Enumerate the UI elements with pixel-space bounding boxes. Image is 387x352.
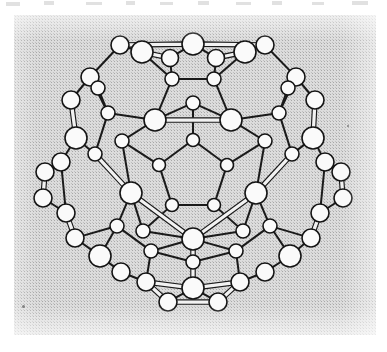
atom-57 xyxy=(112,263,130,281)
atom-11 xyxy=(220,109,242,131)
bond-single xyxy=(275,227,305,236)
scanned-figure-panel xyxy=(14,15,376,335)
scan-streak-mark xyxy=(272,1,282,5)
atom-52 xyxy=(137,273,155,291)
atom-25 xyxy=(131,41,153,63)
bond-shaft xyxy=(104,230,114,248)
atom-9 xyxy=(258,134,272,148)
bond-single xyxy=(96,118,106,150)
atom-1 xyxy=(153,159,166,172)
atom-sphere xyxy=(302,229,320,247)
atom-35 xyxy=(111,36,129,54)
atom-sphere xyxy=(258,134,272,148)
atom-sphere xyxy=(101,106,115,120)
atom-sphere xyxy=(221,159,234,172)
bond-shaft xyxy=(196,143,223,163)
bond-single xyxy=(240,114,275,119)
atom-20 xyxy=(229,244,243,258)
atom-sphere xyxy=(131,41,153,63)
atom-sphere xyxy=(66,229,84,247)
dust-speck xyxy=(22,305,25,308)
atom-12 xyxy=(245,182,267,204)
atom-sphere xyxy=(231,273,249,291)
bond-shaft xyxy=(175,300,211,304)
c60-fullerene-molecule-diagram xyxy=(14,15,376,335)
atom-28 xyxy=(279,245,301,267)
atom-21 xyxy=(144,244,158,258)
bond-shaft xyxy=(231,144,261,163)
bond-shaft xyxy=(240,114,275,119)
atom-3 xyxy=(208,199,221,212)
scan-streak-mark xyxy=(352,1,368,5)
bond-shaft xyxy=(259,201,268,221)
atom-8 xyxy=(236,224,250,238)
bond-single xyxy=(148,232,185,238)
atom-sphere xyxy=(52,153,70,171)
atom-5 xyxy=(186,96,200,110)
bond-double xyxy=(97,156,127,188)
atom-sphere xyxy=(182,228,204,250)
atom-4 xyxy=(221,159,234,172)
bond-single xyxy=(201,241,231,249)
bond-single xyxy=(238,125,260,139)
scan-streak-mark xyxy=(160,2,173,5)
bond-single xyxy=(202,232,239,238)
scan-streak-mark xyxy=(236,2,251,5)
atom-59 xyxy=(186,255,200,269)
atom-sphere xyxy=(182,277,204,299)
bond-single xyxy=(104,230,114,248)
atom-42 xyxy=(332,163,350,181)
atom-sphere xyxy=(159,293,177,311)
atom-56 xyxy=(209,293,227,311)
bond-shaft xyxy=(163,105,189,116)
bond-shaft xyxy=(197,105,223,116)
bond-shaft xyxy=(258,146,265,185)
atom-31 xyxy=(182,33,204,55)
bond-shaft xyxy=(148,232,185,238)
atom-sphere xyxy=(111,36,129,54)
atom-49 xyxy=(311,204,329,222)
bond-double xyxy=(201,281,233,289)
bond-shaft xyxy=(164,118,222,122)
dust-speck xyxy=(347,125,349,127)
bond-shaft xyxy=(280,118,290,150)
bond-shaft xyxy=(126,125,148,139)
atom-sphere xyxy=(220,109,242,131)
bond-single xyxy=(245,201,254,226)
bond-single xyxy=(162,143,189,163)
atom-sphere xyxy=(229,244,243,258)
bond-single xyxy=(321,169,325,206)
bond-shaft xyxy=(96,118,106,150)
atom-sphere xyxy=(144,109,166,131)
scan-streak-mark xyxy=(126,1,135,5)
atom-sphere xyxy=(234,41,256,63)
atom-41 xyxy=(34,189,52,207)
bond-single xyxy=(258,146,265,185)
bond-double xyxy=(152,281,184,289)
atom-44 xyxy=(66,229,84,247)
atom-sphere xyxy=(115,134,129,148)
atom-sphere xyxy=(62,91,80,109)
atom-50 xyxy=(91,81,105,95)
atom-40 xyxy=(36,163,54,181)
atom-sphere xyxy=(281,81,295,95)
bond-single xyxy=(160,169,170,201)
atom-24 xyxy=(101,106,115,120)
bond-shaft xyxy=(215,169,225,201)
atom-sphere xyxy=(187,134,200,147)
scan-streak-mark xyxy=(312,2,324,5)
atom-27 xyxy=(302,127,324,149)
atom-sphere xyxy=(209,293,227,311)
bond-double xyxy=(260,156,290,188)
bond-single xyxy=(231,144,261,163)
bond-single xyxy=(113,114,147,119)
atom-15 xyxy=(165,72,179,86)
bond-single xyxy=(280,118,290,150)
bond-shaft xyxy=(152,281,184,289)
bond-single xyxy=(197,105,223,116)
bond-single xyxy=(156,241,185,249)
atom-46 xyxy=(52,153,70,171)
bond-shaft xyxy=(238,125,260,139)
atom-sphere xyxy=(36,163,54,181)
atom-sphere xyxy=(110,219,124,233)
